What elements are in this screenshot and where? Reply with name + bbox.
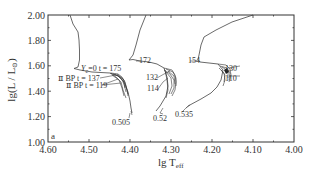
label-t172: 172	[139, 56, 151, 65]
label-mass-0535: 0.535	[175, 110, 193, 119]
leader-132	[157, 74, 164, 78]
track-052	[129, 15, 176, 111]
y-tick-labels: 1.00 1.20 1.40 1.60 1.80 2.00	[28, 10, 46, 148]
label-mass-052: 0.52	[153, 114, 167, 123]
label-t132: 132	[146, 73, 158, 82]
x-tick-label: 4.10	[244, 144, 262, 155]
label-yc0-t175: Yc=0 t = 175	[81, 64, 121, 74]
y-tick-label: 1.60	[28, 60, 46, 71]
y-tick-label: 1.40	[28, 86, 46, 97]
y-axis-title: lg(L / L⊙)	[5, 58, 19, 102]
x-tick-labels: 4.60 4.50 4.40 4.30 4.20 4.10 4.00	[39, 144, 303, 155]
label-t154: 154	[188, 56, 200, 65]
label-t114: 114	[147, 84, 159, 93]
x-tick-label: 4.40	[121, 144, 139, 155]
arrow-052	[160, 108, 163, 113]
y-tick-label: 1.20	[28, 111, 46, 122]
leader-114	[158, 82, 163, 89]
y-tick-label: 1.80	[28, 35, 46, 46]
x-axis-title: lg Teff	[158, 156, 184, 170]
label-bp119: Ⅱ BP t = 119	[66, 81, 107, 90]
y-tick-label: 2.00	[28, 10, 46, 21]
label-t130: 130	[225, 64, 237, 73]
x-tick-label: 4.50	[80, 144, 98, 155]
label-t110: 110	[225, 74, 237, 83]
panel-label: a	[51, 131, 55, 141]
label-mass-0505: 0.505	[112, 118, 130, 127]
y-tick-label: 1.00	[28, 137, 46, 148]
x-tick-label: 4.20	[203, 144, 221, 155]
hr-diagram-chart: 4.60 4.50 4.40 4.30 4.20 4.10 4.00 1.00 …	[0, 0, 315, 176]
x-tick-label: 4.00	[285, 144, 303, 155]
x-tick-label: 4.30	[162, 144, 180, 155]
